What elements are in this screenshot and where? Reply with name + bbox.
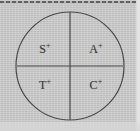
- quadrant-letter-c: C: [90, 78, 98, 92]
- quadrant-label-lower-left: T+: [39, 78, 51, 91]
- charge-sign-s: +: [46, 41, 51, 50]
- charge-sign-t: +: [46, 77, 51, 86]
- quadrant-letter-s: S: [39, 42, 46, 56]
- quadrant-letter-a: A: [89, 42, 98, 56]
- quadrant-label-lower-right: C+: [90, 78, 103, 91]
- charge-sign-a: +: [98, 41, 103, 50]
- quadrant-label-upper-left: S+: [39, 42, 51, 55]
- figure-container: S+ A+ T+ C+: [0, 0, 140, 131]
- top-scan-rule: [0, 1, 140, 3]
- right-margin-strip: [136, 0, 140, 131]
- quadrant-label-upper-right: A+: [89, 42, 103, 55]
- quadrant-circle-diagram: [0, 0, 140, 131]
- charge-sign-c: +: [98, 77, 103, 86]
- bottom-margin-strip: [0, 122, 140, 131]
- quadrant-letter-t: T: [39, 78, 47, 92]
